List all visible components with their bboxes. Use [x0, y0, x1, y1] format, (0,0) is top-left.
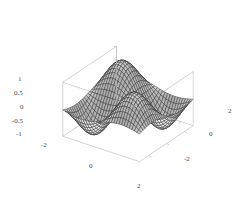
x_axis-tick-label: -2: [41, 142, 47, 149]
x_axis-tick-label: 2: [137, 183, 141, 190]
y_axis-tick-label: 2: [228, 108, 232, 115]
y_axis-tick-label: 0: [209, 131, 213, 138]
z_axis-tick-label: 0: [20, 104, 24, 111]
frame-base-back-right-edge: [63, 136, 140, 161]
z_axis-tick-label: 0.5: [14, 90, 23, 97]
y-tick-mark: [166, 144, 169, 145]
y-tick-mark: [184, 132, 187, 133]
surface-plot-figure: 10.50-0.5-1-20220-2: [0, 0, 249, 201]
y-tick-mark: [148, 156, 151, 157]
z_axis-tick-label: 1: [18, 76, 22, 83]
y_axis-tick-label: -2: [184, 156, 190, 163]
z_axis-tick-label: -1: [16, 131, 22, 138]
x-tick-mark: [179, 121, 181, 124]
z_axis-tick-label: -0.5: [12, 118, 23, 125]
x_axis-tick-label: 0: [89, 163, 93, 170]
surface-mesh: [63, 60, 193, 135]
surface-plot-canvas: [0, 0, 249, 201]
